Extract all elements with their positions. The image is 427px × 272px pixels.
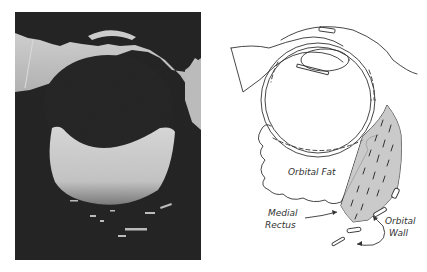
medial-rectus-shading [341, 105, 402, 222]
globe-posterior-dashed [273, 138, 363, 151]
eyelid-outline [231, 48, 343, 92]
label-orbital-wall-1: Orbital [385, 216, 416, 226]
label-orbital-wall-2: Wall [389, 228, 408, 238]
lens-outline [301, 49, 349, 71]
globe-outer [261, 43, 375, 157]
scleral-outer [281, 27, 417, 74]
medial-rectus-arrow [305, 212, 337, 218]
label-orbital-fat: Orbital Fat [288, 167, 336, 177]
eyelid-outline-top [231, 37, 343, 48]
cornea-marker [319, 27, 335, 33]
ultrasound-image [0, 0, 213, 272]
globe-inner [265, 47, 371, 153]
globe-dashed [271, 62, 374, 100]
anatomical-drawing: Orbital Fat Medial Rectus Orbital Wall [213, 0, 427, 272]
label-medial-rectus-1: Medial [268, 208, 298, 218]
label-medial-rectus-2: Rectus [265, 220, 296, 230]
